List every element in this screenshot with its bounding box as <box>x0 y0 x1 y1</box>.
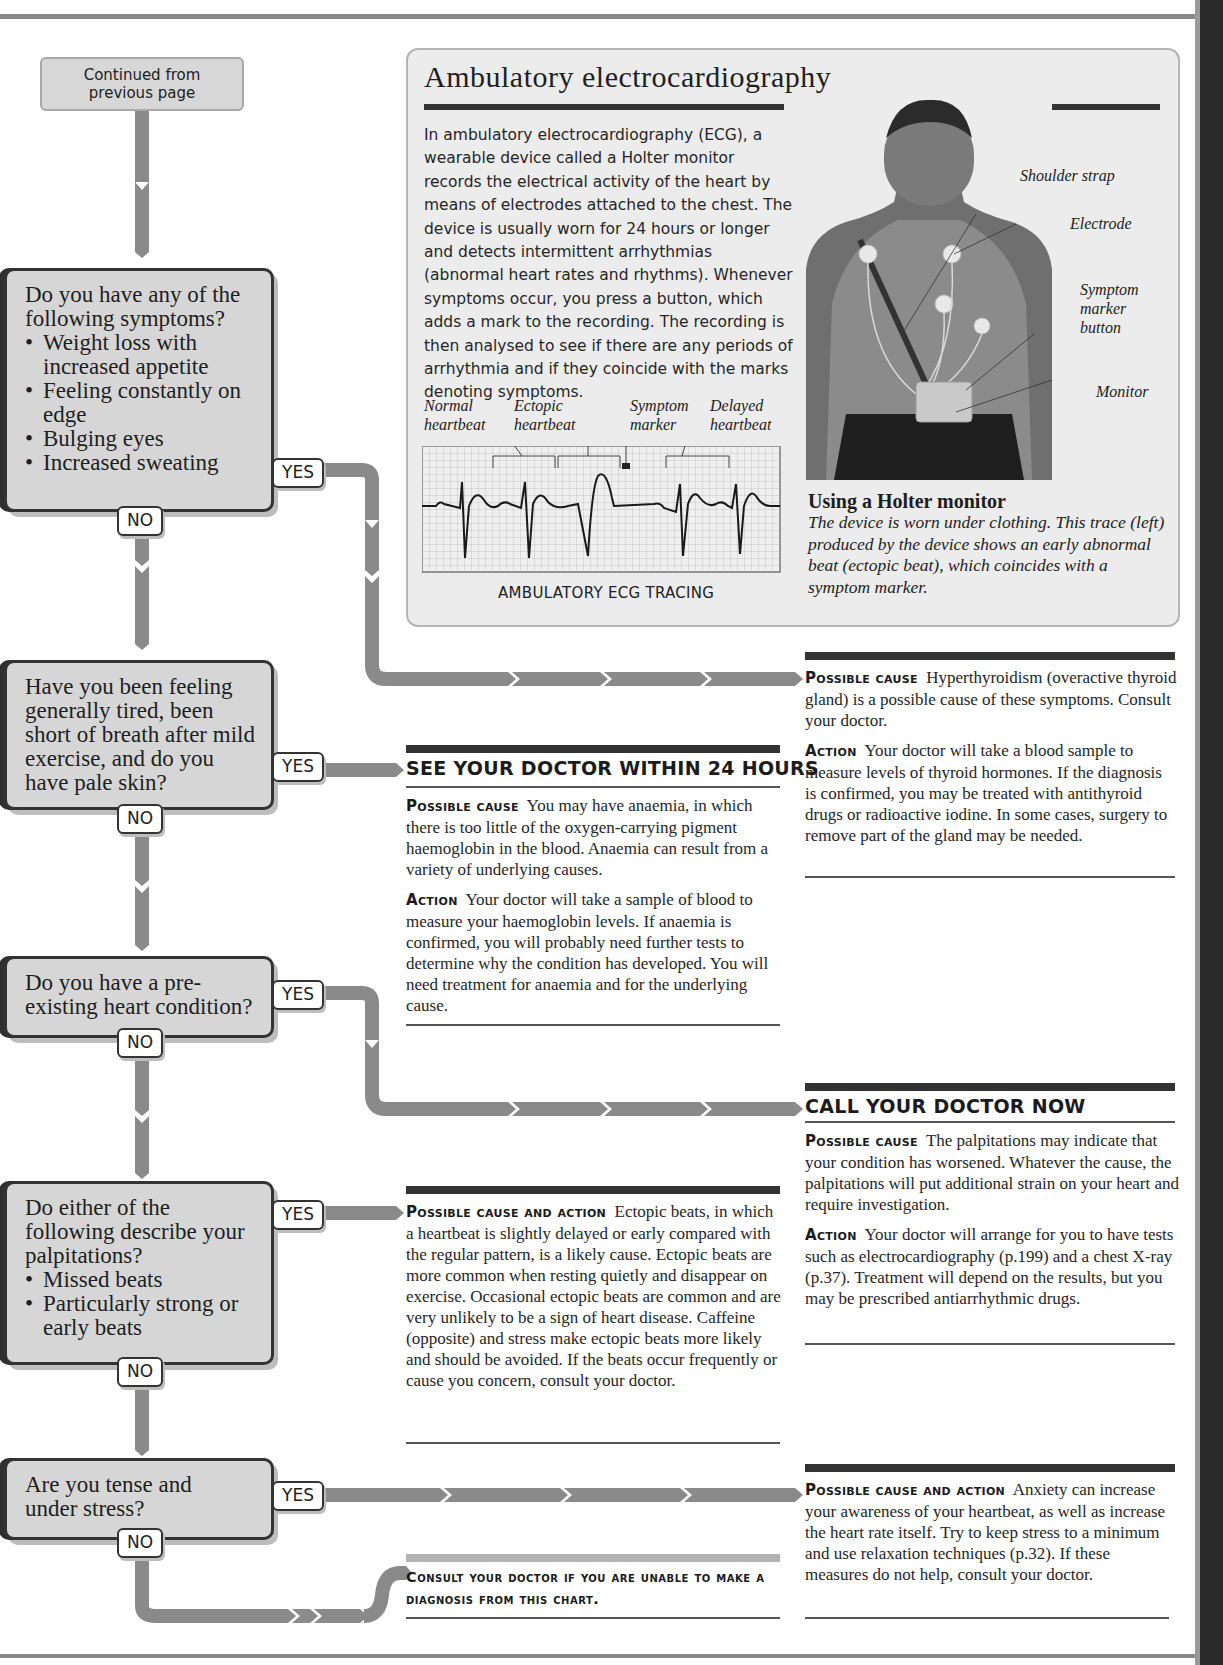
list-item: Feeling constantly on edge <box>25 379 261 427</box>
cause-action-label: Possible cause and action <box>805 1481 1005 1499</box>
heading-rule <box>805 1121 1175 1123</box>
photo-label-electrode: Electrode <box>1070 214 1132 233</box>
action-text: Your doctor will take a blood sample to … <box>805 741 1167 845</box>
heading-rule <box>406 786 780 788</box>
result-anaemia: Possible cause You may have anaemia, in … <box>406 795 782 1025</box>
result-top-rule <box>406 745 780 753</box>
question-box-symptoms: Do you have any of the following symptom… <box>4 268 274 512</box>
photo-label-monitor: Monitor <box>1096 382 1148 401</box>
action-text: Your doctor will take a sample of blood … <box>406 890 768 1015</box>
action-text: Your doctor will arrange for you to have… <box>805 1225 1173 1308</box>
list-item: Particularly strong or early beats <box>25 1292 261 1340</box>
list-item: Weight loss with increased appetite <box>25 331 261 379</box>
result-bottom-rule <box>406 1024 780 1026</box>
palpitation-list: Missed beats Particularly strong or earl… <box>25 1268 261 1340</box>
trace-caption: AMBULATORY ECG TRACING <box>498 584 714 602</box>
result-ectopic-beats: Possible cause and action Ectopic beats,… <box>406 1201 782 1400</box>
result-bottom-rule <box>805 876 1175 878</box>
result-hyperthyroidism: Possible cause Hyperthyroidism (overacti… <box>805 667 1177 855</box>
photo-caption: The device is worn under clothing. This … <box>808 512 1168 598</box>
no-button[interactable]: NO <box>117 804 163 834</box>
no-button[interactable]: NO <box>117 506 163 536</box>
photo-label-shoulder-strap: Shoulder strap <box>1020 166 1115 185</box>
trace-label-ectopic: Ectopic heartbeat <box>514 396 594 434</box>
yes-button[interactable]: YES <box>272 458 324 488</box>
question-text: Do you have any of the following symptom… <box>25 283 261 331</box>
result-top-rule <box>805 1083 1175 1091</box>
result-heart-condition: Possible cause The palpitations may indi… <box>805 1130 1181 1318</box>
possible-cause-label: Possible cause <box>805 1132 918 1150</box>
title-rule <box>424 104 784 110</box>
result-top-rule <box>805 1464 1175 1472</box>
panel-body-text: In ambulatory electrocardiography (ECG),… <box>424 124 794 405</box>
photo-title: Using a Holter monitor <box>808 490 1006 513</box>
consult-doctor-note: Consult your doctor if you are unable to… <box>406 1566 780 1610</box>
urgency-heading-call-now: CALL YOUR DOCTOR NOW <box>805 1095 1086 1117</box>
continued-label: Continued from previous page <box>67 66 217 102</box>
yes-button[interactable]: YES <box>272 1481 324 1511</box>
question-text: Are you tense and under stress? <box>25 1473 225 1521</box>
holter-monitor-photo <box>806 94 1052 480</box>
trace-label-delayed: Delayed heartbeat <box>710 396 790 434</box>
possible-cause-label: Possible cause <box>406 797 519 815</box>
question-text: Do either of the following describe your… <box>25 1196 261 1268</box>
result-top-rule <box>406 1186 780 1194</box>
ecg-tracing-chart <box>422 446 782 574</box>
result-top-rule <box>805 652 1175 660</box>
no-button[interactable]: NO <box>117 1028 163 1058</box>
possible-cause-label: Possible cause <box>805 669 918 687</box>
yes-button[interactable]: YES <box>272 1200 324 1230</box>
consult-bottom-rule <box>406 1617 780 1619</box>
question-box-palpitations: Do either of the following describe your… <box>4 1181 274 1365</box>
action-label: Action <box>406 891 458 909</box>
cause-action-text: Ectopic beats, in which a heartbeat is s… <box>406 1202 781 1390</box>
list-item: Increased sweating <box>25 451 261 475</box>
result-bottom-rule <box>805 1343 1175 1345</box>
continued-from-previous-box[interactable]: Continued from previous page <box>40 57 244 111</box>
trace-label-symptom-marker: Symptom marker <box>630 396 702 434</box>
question-text: Have you been feeling generally tired, b… <box>25 675 261 795</box>
yes-button[interactable]: YES <box>272 752 324 782</box>
question-box-heart-condition: Do you have a pre-existing heart conditi… <box>4 956 274 1038</box>
list-item: Missed beats <box>25 1268 261 1292</box>
question-box-tired: Have you been feeling generally tired, b… <box>4 660 274 810</box>
result-anxiety: Possible cause and action Anxiety can in… <box>805 1479 1177 1594</box>
cause-action-label: Possible cause and action <box>406 1203 606 1221</box>
panel-title: Ambulatory electrocardiography <box>424 60 831 94</box>
no-button[interactable]: NO <box>117 1528 163 1558</box>
list-item: Bulging eyes <box>25 427 261 451</box>
no-button[interactable]: NO <box>117 1357 163 1387</box>
action-label: Action <box>805 1226 857 1244</box>
result-bottom-rule <box>805 1617 1169 1619</box>
urgency-heading-24-hours: SEE YOUR DOCTOR WITHIN 24 HOURS <box>406 757 819 779</box>
photo-label-symptom-marker-button: Symptom marker button <box>1080 280 1150 337</box>
question-text: Do you have a pre-existing heart conditi… <box>25 971 265 1019</box>
symptom-list: Weight loss with increased appetite Feel… <box>25 331 261 475</box>
yes-button[interactable]: YES <box>272 980 324 1010</box>
trace-label-normal: Normal heartbeat <box>424 396 504 434</box>
result-bottom-rule <box>406 1442 780 1444</box>
consult-top-rule <box>406 1554 780 1562</box>
